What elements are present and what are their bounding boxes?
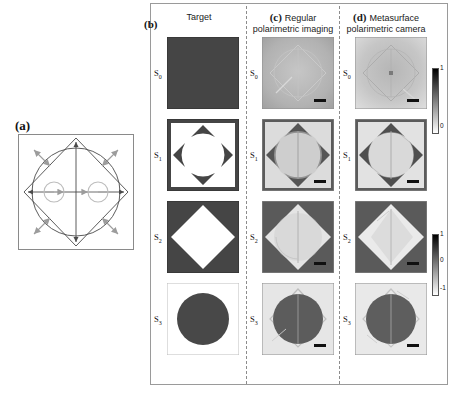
image-s0-metasurface xyxy=(355,37,427,109)
panel-a: (a) xyxy=(12,118,138,258)
image-s0-regular xyxy=(262,37,334,109)
panel-c-tag: (c) xyxy=(270,11,282,23)
scalebar xyxy=(314,99,326,102)
image-s3-metasurface xyxy=(355,283,427,355)
panel-a-diagram xyxy=(12,118,138,258)
row-label-s3-target: S3 xyxy=(154,314,162,326)
column-title-target: Target xyxy=(186,12,211,22)
row-s2: S2 S2 S2 xyxy=(151,199,449,275)
row-label-s0-regular: S0 xyxy=(250,68,258,80)
row-s3: S3 S3 S3 xyxy=(151,281,449,357)
panel-d-tag: (d) xyxy=(353,11,366,23)
column-header-target: (b) Target xyxy=(153,12,245,23)
scalebar xyxy=(314,262,326,265)
scalebar xyxy=(314,180,326,183)
scalebar xyxy=(407,180,419,183)
image-s3-regular xyxy=(262,283,334,355)
row-label-s1-metasurface: S1 xyxy=(343,150,351,162)
image-s1-target xyxy=(167,119,239,191)
column-title-metasurface-line2: polarimetric camera xyxy=(346,24,425,34)
image-s3-target xyxy=(167,283,239,355)
image-s1-regular xyxy=(262,119,334,191)
scalebar xyxy=(407,344,419,347)
row-label-s1-target: S1 xyxy=(154,150,162,162)
row-label-s2-target: S2 xyxy=(154,232,162,244)
column-title-metasurface-line1: Metasurface xyxy=(369,13,419,23)
column-title-regular-line2: polarimetric imaging xyxy=(253,24,334,34)
row-s0: S0 S0 S0 xyxy=(151,35,449,111)
scalebar xyxy=(407,262,419,265)
column-header-metasurface: (d)Metasurface polarimetric camera xyxy=(341,12,431,35)
row-label-s0-metasurface: S0 xyxy=(343,68,351,80)
image-s2-regular xyxy=(262,201,334,273)
column-title-regular-line1: Regular xyxy=(285,13,317,23)
row-s1: S1 S1 S1 xyxy=(151,117,449,193)
image-s2-metasurface xyxy=(355,201,427,273)
scalebar xyxy=(407,99,419,102)
image-s1-metasurface xyxy=(355,119,427,191)
row-label-s0-target: S0 xyxy=(154,68,162,80)
panel-b-tag: (b) xyxy=(144,19,157,30)
row-label-s1-regular: S1 xyxy=(250,150,258,162)
colorbar-s0-tick-max: 1 xyxy=(440,64,444,71)
image-s2-target xyxy=(167,201,239,273)
image-s0-target xyxy=(167,37,239,109)
figure-root: (a) xyxy=(0,0,452,393)
row-label-s2-regular: S2 xyxy=(250,232,258,244)
row-label-s3-regular: S3 xyxy=(250,314,258,326)
row-label-s3-metasurface: S3 xyxy=(343,314,351,326)
scalebar xyxy=(314,344,326,347)
column-header-regular: (c)Regular polarimetric imaging xyxy=(248,12,338,35)
row-label-s2-metasurface: S2 xyxy=(343,232,351,244)
panels-bcd-frame: (b) Target (c)Regular polarimetric imagi… xyxy=(150,3,448,385)
